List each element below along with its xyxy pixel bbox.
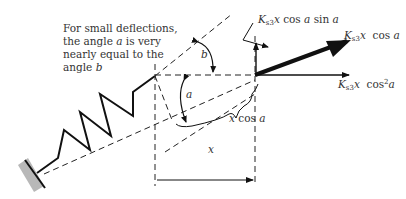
label-var: a	[389, 78, 395, 90]
label-sub: s3	[352, 35, 360, 43]
label-k: K	[344, 29, 352, 41]
horizontal-force-label: Ks3x cos2a	[338, 78, 395, 92]
note-text: is very	[122, 35, 161, 47]
note-line-2: the angle a is very	[63, 35, 177, 48]
angle-b-label: b	[201, 48, 208, 60]
label-fn: cos	[280, 13, 304, 25]
angle-a-arc	[180, 80, 186, 122]
note-text: angle	[63, 61, 96, 73]
angle-a-label: a	[186, 88, 192, 100]
deflection-note: For small deflections, the angle a is ve…	[63, 22, 177, 74]
label-k: K	[258, 13, 266, 25]
label-fn: cos	[235, 112, 259, 124]
label-fn: sin	[310, 13, 332, 25]
x-label: x	[208, 143, 214, 155]
vertical-force-label: Ks3x cos a sin a	[258, 13, 339, 27]
note-line-3: nearly equal to the	[63, 48, 177, 61]
x-cos-a-label: x cos a	[229, 112, 265, 124]
spring	[37, 76, 155, 173]
label-var: a	[333, 13, 339, 25]
note-line-1: For small deflections,	[63, 22, 177, 35]
spring-deflection-diagram: For small deflections, the angle a is ve…	[0, 0, 406, 199]
label-sub: s3	[266, 19, 274, 27]
label-fn: cos	[360, 78, 384, 90]
label-fn: cos	[366, 29, 394, 41]
note-line-4: angle b	[63, 61, 177, 74]
label-sub: s3	[346, 84, 354, 92]
note-text: the angle	[63, 35, 116, 47]
resultant-force-label: Ks3x cos a	[344, 29, 400, 43]
label-var: a	[393, 29, 399, 41]
label-k: K	[338, 78, 346, 90]
label-var: a	[259, 112, 265, 124]
note-var-b: b	[96, 61, 103, 73]
fixed-wall-icon	[18, 158, 45, 192]
